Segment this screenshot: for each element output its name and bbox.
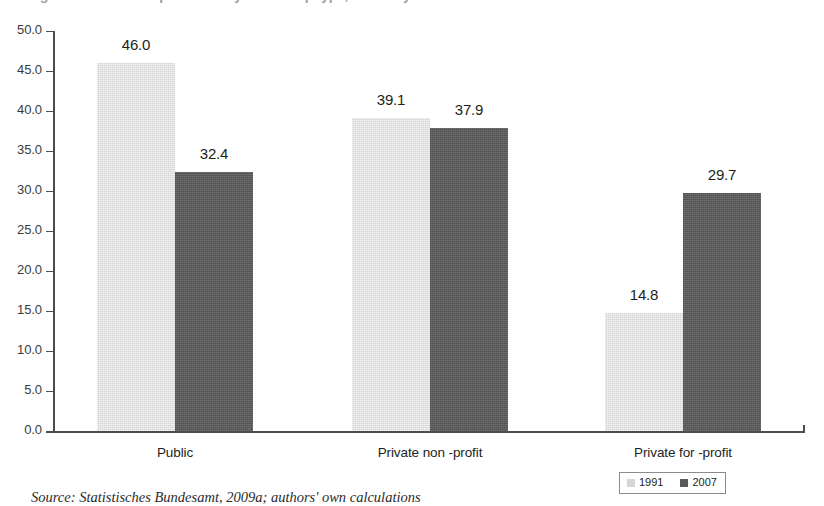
x-axis-line	[46, 431, 805, 433]
bar-2007-public	[175, 172, 253, 431]
bar-value-label: 39.1	[377, 91, 405, 108]
legend-swatch-icon	[627, 479, 635, 487]
legend-label: 1991	[639, 477, 663, 488]
bar-group-item: 29.7	[683, 0, 761, 431]
bar-chart: 50.045.040.035.030.025.020.015.010.05.00…	[0, 0, 824, 470]
legend-entry-2007: 2007	[680, 477, 716, 488]
bar-2007-private-non-profit	[430, 128, 508, 431]
bar-value-label: 29.7	[708, 166, 736, 183]
bar-value-label: 46.0	[122, 36, 150, 53]
bar-1991-private-for-profit	[605, 313, 683, 431]
plot-body: 46.032.439.137.914.829.7	[0, 0, 824, 431]
bar-value-label: 37.9	[455, 101, 483, 118]
bar-group-item: 46.0	[97, 0, 175, 431]
bar-group-item: 37.9	[430, 0, 508, 431]
legend-swatch-icon	[680, 479, 688, 487]
bar-2007-private-for-profit	[683, 193, 761, 431]
chart-legend: 19912007	[619, 472, 726, 494]
x-axis-label-2: Private for -profit	[634, 445, 732, 460]
bar-group-item: 32.4	[175, 0, 253, 431]
y-axis-tick	[46, 431, 54, 432]
legend-label: 2007	[692, 477, 716, 488]
legend-entry-1991: 1991	[627, 477, 663, 488]
bar-1991-public	[97, 63, 175, 431]
source-caption: Source: Statistisches Bundesamt, 2009a; …	[31, 489, 421, 506]
bar-group-item: 14.8	[605, 0, 683, 431]
bar-value-label: 32.4	[200, 145, 228, 162]
bar-value-label: 14.8	[630, 286, 658, 303]
x-axis-label-1: Private non -profit	[378, 445, 483, 460]
bar-group-item: 39.1	[352, 0, 430, 431]
bar-1991-private-non-profit	[352, 118, 430, 431]
x-axis-label-0: Public	[157, 445, 193, 460]
